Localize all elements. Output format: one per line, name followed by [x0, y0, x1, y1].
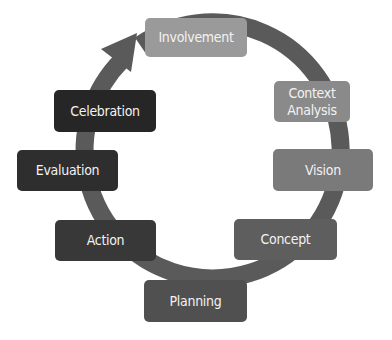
- step-label: Concept: [261, 231, 311, 248]
- step-vision: Vision: [273, 149, 373, 191]
- step-label: Context Analysis: [287, 85, 337, 119]
- step-label: Vision: [305, 162, 341, 179]
- step-context-analysis: Context Analysis: [274, 81, 350, 122]
- step-celebration: Celebration: [54, 90, 156, 132]
- step-planning: Planning: [144, 280, 247, 322]
- step-involvement: Involvement: [145, 18, 247, 57]
- step-concept: Concept: [234, 219, 337, 260]
- step-label: Celebration: [70, 103, 140, 120]
- step-action: Action: [55, 220, 156, 261]
- step-label: Involvement: [158, 29, 233, 46]
- step-label: Action: [87, 232, 125, 249]
- step-evaluation: Evaluation: [17, 150, 118, 191]
- step-label: Planning: [170, 293, 222, 310]
- step-label: Evaluation: [36, 162, 99, 179]
